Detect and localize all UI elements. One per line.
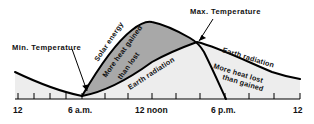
min-temperature-arrow [72,49,89,91]
axis-label-midnight-start: 12 [13,105,23,115]
axis-label-6pm: 6 p.m. [211,105,236,115]
axis-label-6am: 6 a.m. [68,105,92,115]
diagram-figure: Min. Temperature Max. Temperature Solar … [0,0,314,124]
max-temperature-arrow [199,19,213,41]
axis-label-midnight-end: 12 [293,105,303,115]
max-temperature-label: Max. Temperature [190,7,261,16]
axis-label-12noon: 12 noon [135,105,168,115]
min-temperature-label: Min. Temperature [12,43,81,52]
